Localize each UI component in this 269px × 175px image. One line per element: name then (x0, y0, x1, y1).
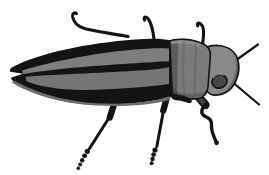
tarsus-bead (85, 149, 90, 154)
tarsus-bead (152, 147, 157, 152)
front-foot (214, 140, 219, 145)
pronotum-group (168, 39, 211, 99)
beetle-figure (0, 0, 269, 175)
pronotum-streak (183, 41, 184, 97)
tarsus-bead (78, 162, 82, 166)
tarsus-bead (77, 166, 81, 170)
tarsus-bead (150, 157, 154, 161)
tarsus-bead (150, 161, 154, 165)
beetle-svg (0, 0, 269, 175)
tarsus-bead (82, 153, 87, 158)
tarsus-bead (80, 158, 84, 162)
tarsus-bead (151, 152, 156, 157)
